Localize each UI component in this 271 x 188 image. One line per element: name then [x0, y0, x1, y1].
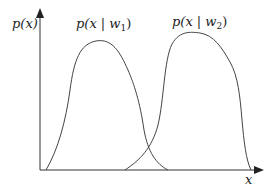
curve-label-w1: p(x | w1): [76, 16, 131, 33]
curve-label-w2: p(x | w2): [172, 14, 227, 31]
density-diagram: p(x) p(x | w1) p(x | w2) x: [0, 0, 271, 188]
curve-label-w2-close: ): [222, 14, 227, 29]
curve-label-w1-main: p(x | w: [76, 16, 121, 31]
x-axis-arrow-icon: [254, 166, 264, 174]
density-curve-w2: [125, 32, 251, 170]
x-axis-label: x: [245, 172, 253, 187]
y-axis-label: p(x): [12, 16, 38, 31]
curve-label-w1-close: ): [126, 16, 131, 31]
density-curve-w1: [46, 41, 168, 170]
curve-label-w2-main: p(x | w: [172, 14, 217, 29]
